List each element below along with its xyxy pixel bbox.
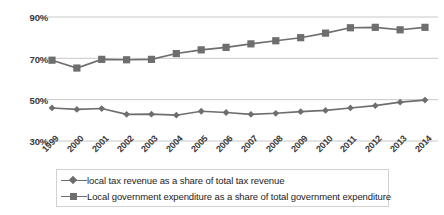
- series-line: [52, 100, 425, 115]
- data-point-square: [272, 37, 279, 44]
- series-line: [52, 27, 425, 68]
- data-point-diamond: [347, 105, 354, 112]
- data-point-square: [247, 40, 254, 47]
- data-point-square: [347, 24, 354, 31]
- series-local-government-expenditure: [48, 24, 428, 72]
- data-point-square: [48, 57, 55, 64]
- data-point-diamond: [372, 102, 379, 109]
- y-tick-label: 90%: [18, 12, 48, 23]
- data-point-diamond: [422, 97, 429, 104]
- data-point-diamond: [272, 110, 279, 117]
- chart-container: 90% 70% 50% 30% 199920002001200220032004…: [0, 0, 444, 215]
- data-point-diamond: [297, 108, 304, 115]
- data-point-diamond: [123, 111, 130, 118]
- data-point-diamond: [173, 112, 180, 119]
- data-point-square: [148, 56, 155, 63]
- data-point-diamond: [322, 107, 329, 114]
- data-point-square: [73, 64, 80, 71]
- data-point-square: [198, 46, 205, 53]
- data-point-diamond: [198, 108, 205, 115]
- legend-item-local-tax-revenue: local tax revenue as a share of total ta…: [61, 173, 284, 187]
- data-point-square: [322, 30, 329, 37]
- legend-item-label: Local government expenditure as a share …: [87, 191, 391, 202]
- chart-legend: local tax revenue as a share of total ta…: [56, 169, 389, 207]
- legend-item-label: local tax revenue as a share of total ta…: [87, 175, 284, 186]
- data-point-diamond: [98, 105, 105, 112]
- data-point-diamond: [49, 105, 56, 112]
- data-point-diamond: [73, 106, 80, 113]
- diamond-marker-icon: [61, 174, 87, 186]
- data-point-square: [372, 24, 379, 31]
- square-marker-icon: [61, 190, 87, 202]
- data-point-square: [173, 50, 180, 57]
- data-point-square: [98, 56, 105, 63]
- data-point-diamond: [248, 111, 255, 118]
- data-point-square: [222, 44, 229, 51]
- data-point-diamond: [148, 111, 155, 118]
- data-point-square: [397, 26, 404, 33]
- y-tick-label: 50%: [18, 95, 48, 106]
- data-point-square: [421, 24, 428, 31]
- data-point-diamond: [223, 109, 230, 116]
- data-point-square: [297, 34, 304, 41]
- data-point-square: [123, 56, 130, 63]
- legend-item-local-government-expenditure: Local government expenditure as a share …: [61, 189, 391, 203]
- y-tick-label: 70%: [18, 54, 48, 65]
